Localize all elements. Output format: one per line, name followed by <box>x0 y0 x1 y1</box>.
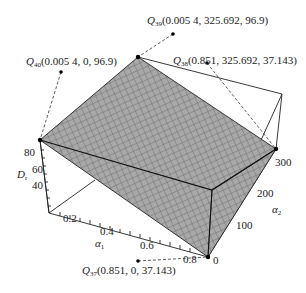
z-tick: 40 <box>32 180 43 191</box>
point-q39-label-dot <box>171 32 175 36</box>
x-tick: 0.6 <box>140 240 154 251</box>
x-tick: 0.8 <box>183 254 197 265</box>
y-tick: 300 <box>275 157 292 168</box>
y-axis-label: α2 <box>272 204 281 217</box>
point-q38-corner <box>274 147 278 151</box>
x-axis-label: α1 <box>95 238 104 251</box>
label-q39: Q39(0.005 4, 325.692, 96.9) <box>147 15 268 28</box>
z-axis-label: Dr <box>17 169 27 182</box>
y-tick: 0 <box>213 255 219 266</box>
label-q40: Q40(0.005 4, 0, 96.9) <box>26 56 117 69</box>
point-q40-corner <box>38 138 42 142</box>
z-axis <box>40 140 51 213</box>
y-tick: 100 <box>236 220 253 231</box>
y-tick: 200 <box>257 188 274 199</box>
point-q40-label-dot <box>59 70 63 74</box>
z-tick: 60 <box>32 164 43 175</box>
label-q38: Q38(0.851, 325.692, 37.143) <box>173 55 297 68</box>
point-q39-corner <box>136 55 140 59</box>
x-tick: 0.2 <box>63 213 77 224</box>
x-tick: 0.4 <box>100 226 114 237</box>
z-tick: 80 <box>24 147 35 158</box>
point-q37-label-dot <box>136 259 140 263</box>
point-q37-corner <box>206 255 210 259</box>
label-q37: Q37(0.851, 0, 37.143) <box>82 265 176 278</box>
